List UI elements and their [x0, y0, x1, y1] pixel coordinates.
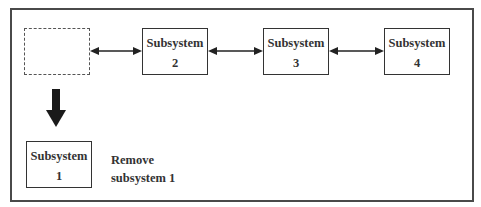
bidirectional-arrow-icon — [208, 47, 263, 55]
bidirectional-arrow-icon — [329, 47, 384, 55]
bidirectional-arrow-icon — [90, 47, 142, 55]
connector-layer — [0, 0, 481, 207]
thick-down-arrow-icon — [46, 89, 66, 127]
